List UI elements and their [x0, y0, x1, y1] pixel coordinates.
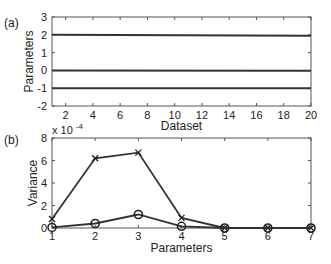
panel-a: -2-101232468101214161820DatasetParameter…: [4, 11, 317, 133]
x-tick-label: 16: [250, 109, 262, 121]
axes-frame-b: [52, 138, 311, 228]
x-tick-label: 3: [135, 230, 141, 242]
series-line: [52, 153, 311, 228]
y-tick-label: 0: [41, 222, 47, 234]
y-tick-label: 2: [41, 200, 47, 212]
y-tick-label: 3: [41, 11, 47, 23]
y-tick-label: 1: [41, 47, 47, 59]
y-tick-label: 2: [41, 29, 47, 41]
figure: -2-101232468101214161820DatasetParameter…: [0, 0, 331, 264]
x-tick-label: 14: [223, 109, 235, 121]
panel-b: 024681234567x 10 -4ParametersVariance(b): [4, 122, 315, 255]
x-tick-label: 2: [63, 109, 69, 121]
x-axis-label: Parameters: [150, 241, 212, 255]
series-line: [52, 35, 311, 36]
x-tick-label: 6: [117, 109, 123, 121]
x-tick-label: 18: [278, 109, 290, 121]
y-axis-label: Parameters: [22, 30, 36, 92]
axes-frame-a: [52, 17, 311, 106]
y-axis-label: Variance: [26, 159, 40, 206]
x-tick-label: 8: [144, 109, 150, 121]
y-tick-label: -1: [37, 82, 47, 94]
y-tick-label: 4: [41, 177, 47, 189]
y-tick-label: -2: [37, 100, 47, 112]
panel-label-a: (a): [4, 16, 19, 30]
y-tick-label: 8: [41, 132, 47, 144]
x-axis-label: Dataset: [161, 119, 203, 133]
y-tick-label: 6: [41, 155, 47, 167]
x-tick-label: 20: [305, 109, 317, 121]
panel-label-b: (b): [4, 133, 19, 147]
scale-label: x 10 -4: [52, 122, 84, 136]
x-tick-label: 2: [92, 230, 98, 242]
x-tick-label: 4: [90, 109, 96, 121]
y-tick-label: 0: [41, 64, 47, 76]
